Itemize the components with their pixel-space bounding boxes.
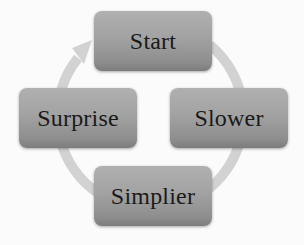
node-label-surprise: Surprise	[37, 105, 119, 132]
node-simplier: Simplier	[94, 166, 212, 226]
node-start: Start	[94, 11, 212, 71]
node-slower: Slower	[170, 88, 288, 148]
node-label-simplier: Simplier	[111, 183, 195, 210]
node-surprise: Surprise	[19, 88, 137, 148]
node-label-slower: Slower	[194, 105, 263, 132]
node-label-start: Start	[130, 28, 176, 55]
